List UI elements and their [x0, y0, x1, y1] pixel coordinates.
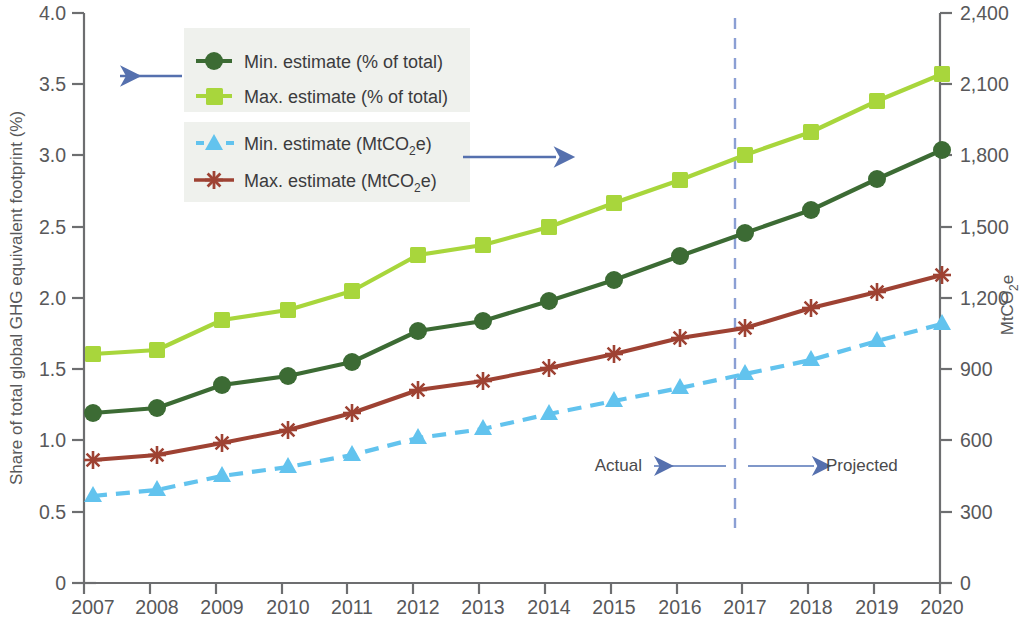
left-axis-title: Share of total global GHG equivalent foo…	[7, 111, 26, 485]
ytick-label-3: 1.5	[39, 358, 66, 380]
legend-label-max-percent: Max. estimate (% of total)	[244, 87, 448, 107]
projected-label: Projected	[826, 456, 898, 475]
svg-text:MtCO2e: MtCO2e	[998, 275, 1021, 336]
y2tick-label-1: 300	[960, 501, 993, 523]
ytick-label-2: 1.0	[39, 429, 66, 451]
xtick-label-2009: 2009	[200, 596, 243, 618]
ytick-label-1: 0.5	[39, 501, 66, 523]
legend-label-max-mtco2e-pre: Max. estimate (MtCO	[244, 171, 414, 191]
xtick-label-2010: 2010	[266, 596, 310, 618]
ytick-label-8: 4.0	[39, 2, 66, 24]
series-min-mtco2e	[84, 314, 951, 502]
y2tick-label-8: 2,400	[960, 2, 1009, 24]
legend-label-min-mtco2e-post: e)	[416, 134, 432, 154]
y2tick-label-5: 1,500	[960, 216, 1009, 238]
ytick-label-6: 3.0	[39, 144, 66, 166]
actual-label: Actual	[595, 456, 642, 475]
series-max-mtco2e-markers	[84, 266, 951, 469]
xtick-label-2013: 2013	[461, 596, 504, 618]
bottom-axis-ticks	[84, 583, 940, 594]
legend-label-min-percent: Min. estimate (% of total)	[244, 52, 443, 72]
ytick-label-7: 3.5	[39, 73, 66, 95]
y2tick-label-0: 0	[960, 572, 971, 594]
ytick-label-0: 0	[55, 572, 66, 594]
xtick-label-2020: 2020	[920, 596, 964, 618]
xtick-label-2016: 2016	[658, 596, 701, 618]
legend-circle-marker-icon	[205, 52, 223, 70]
chart-container: 0 0.5 1.0 1.5 2.0 2.5 3.0 3.5 4.0 Share …	[0, 0, 1026, 620]
xtick-label-2007: 2007	[71, 596, 114, 618]
right-axis-title: MtCO2e	[998, 275, 1021, 336]
projected-annotation: Projected	[748, 456, 898, 475]
legend: Min. estimate (% of total) Max. estimate…	[184, 28, 470, 202]
y2tick-label-7: 2,100	[960, 73, 1009, 95]
right-axis-title-post: e	[998, 275, 1017, 284]
xtick-label-2018: 2018	[789, 596, 832, 618]
xtick-label-2019: 2019	[855, 596, 898, 618]
y2tick-label-6: 1,800	[960, 144, 1009, 166]
xtick-label-2014: 2014	[527, 596, 571, 618]
ghg-footprint-line-chart: 0 0.5 1.0 1.5 2.0 2.5 3.0 3.5 4.0 Share …	[0, 0, 1026, 620]
legend-label-min-mtco2e-pre: Min. estimate (MtCO	[244, 134, 409, 154]
y2tick-label-3: 900	[960, 358, 993, 380]
xtick-label-2011: 2011	[331, 596, 373, 618]
actual-annotation: Actual	[595, 456, 726, 475]
right-axis-title-pre: MtCO	[998, 291, 1017, 335]
ytick-label-4: 2.0	[39, 287, 66, 309]
legend-label-max-mtco2e-post: e)	[421, 171, 437, 191]
left-axis: 0 0.5 1.0 1.5 2.0 2.5 3.0 3.5 4.0	[39, 2, 96, 594]
xtick-label-2015: 2015	[592, 596, 636, 618]
legend-asterisk-marker-icon	[205, 171, 223, 189]
left-axis-title-text: Share of total global GHG equivalent foo…	[7, 111, 26, 485]
y2tick-label-2: 600	[960, 429, 993, 451]
bottom-axis: 2007 2008 2009 2010 2011 2012 2013 2014 …	[71, 583, 964, 618]
xtick-label-2008: 2008	[135, 596, 178, 618]
xtick-label-2017: 2017	[723, 596, 766, 618]
ytick-label-5: 2.5	[39, 216, 66, 238]
right-axis-ticks	[940, 13, 952, 583]
series-min-mtco2e-markers	[84, 314, 951, 502]
series-max-mtco2e	[84, 266, 951, 469]
xtick-label-2012: 2012	[396, 596, 439, 618]
legend-square-marker-icon	[206, 88, 223, 105]
